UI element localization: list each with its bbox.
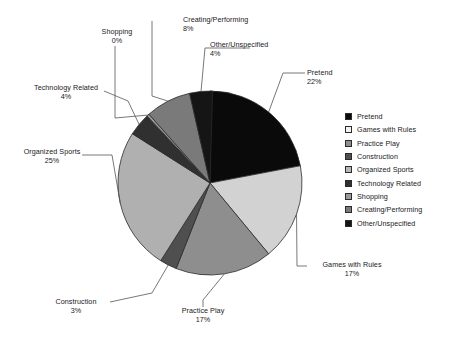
legend-swatch-icon [345,113,352,120]
pie-chart-figure: Shopping 0% Creating/Performing 8% Other… [0,0,449,343]
callout-shopping: Shopping 0% [84,27,150,45]
legend-swatch-icon [345,153,352,160]
chart-legend: PretendGames with RulesPractice PlayCons… [345,110,449,230]
leader-line-technology-related [104,91,139,124]
callout-organized-sports-value: 25% [12,156,92,165]
leader-line-pretend [269,73,305,112]
legend-item-practice-play[interactable]: Practice Play [345,137,449,150]
leader-line-games-with-rules [297,214,307,266]
legend-swatch-icon [345,193,352,200]
callout-creating-performing-value: 8% [183,24,293,33]
callout-other-unspecified-label: Other/Unspecified [210,40,268,49]
legend-item-construction[interactable]: Construction [345,150,449,163]
legend-swatch-icon [345,126,352,133]
legend-item-pretend[interactable]: Pretend [345,110,449,123]
callout-pretend-value: 22% [307,77,387,86]
legend-item-technology-related[interactable]: Technology Related [345,176,449,189]
legend-item-creating-performing[interactable]: Creating/Performing [345,203,449,216]
legend-item-other-unspecified[interactable]: Other/Unspecified [345,216,449,229]
legend-swatch-icon [345,206,352,213]
callout-shopping-value: 0% [84,36,150,45]
legend-item-label: Organized Sports [357,165,414,174]
legend-swatch-icon [345,220,352,227]
callout-games-with-rules-value: 17% [310,269,394,278]
callout-practice-play: Practice Play 17% [170,306,236,324]
legend-item-organized-sports[interactable]: Organized Sports [345,163,449,176]
callout-shopping-label: Shopping [102,27,133,36]
leader-line-practice-play [203,274,224,307]
callout-creating-performing-label: Creating/Performing [183,15,248,24]
callout-organized-sports: Organized Sports 25% [12,147,92,165]
callout-technology-related-label: Technology Related [34,83,98,92]
callout-practice-play-value: 17% [170,315,236,324]
legend-item-label: Creating/Performing [357,205,422,214]
legend-item-shopping[interactable]: Shopping [345,190,449,203]
legend-item-label: Other/Unspecified [357,219,415,228]
callout-construction: Construction 3% [45,297,107,315]
leader-line-construction [110,265,168,302]
legend-item-label: Games with Rules [357,125,416,134]
leader-line-shopping [115,46,148,118]
leader-line-creating-performing [152,21,168,101]
callout-pretend-label: Pretend [307,68,333,77]
callout-technology-related: Technology Related 4% [23,83,109,101]
callout-games-with-rules-label: Games with Rules [322,260,381,269]
callout-pretend: Pretend 22% [307,68,387,86]
callout-other-unspecified: Other/Unspecified 4% [210,40,310,58]
legend-item-games-with-rules[interactable]: Games with Rules [345,123,449,136]
callout-construction-label: Construction [56,297,97,306]
legend-swatch-icon [345,166,352,173]
callout-construction-value: 3% [45,306,107,315]
callout-practice-play-label: Practice Play [182,306,225,315]
legend-item-label: Construction [357,152,398,161]
callout-games-with-rules: Games with Rules 17% [310,260,394,278]
legend-item-label: Practice Play [357,139,400,148]
pie-slices-group [118,91,302,275]
callout-other-unspecified-value: 4% [210,49,310,58]
callout-creating-performing: Creating/Performing 8% [183,15,293,33]
legend-swatch-icon [345,140,352,147]
legend-item-label: Technology Related [357,179,421,188]
callout-technology-related-value: 4% [23,92,109,101]
legend-item-label: Shopping [357,192,388,201]
callout-organized-sports-label: Organized Sports [24,147,81,156]
legend-swatch-icon [345,180,352,187]
legend-item-label: Pretend [357,112,383,121]
